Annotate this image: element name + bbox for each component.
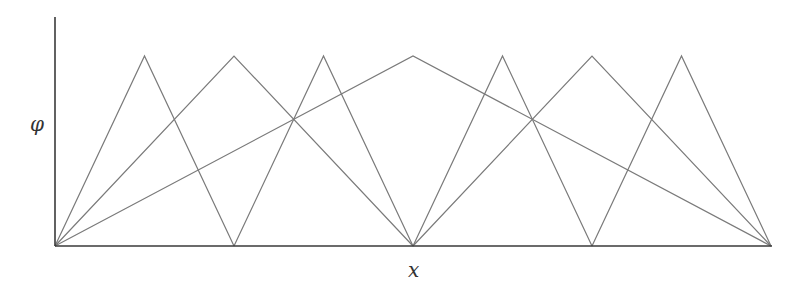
- hat-function-diagram: φ x: [0, 0, 800, 299]
- hat-function-line: [55, 56, 771, 246]
- hat-functions: [55, 56, 771, 246]
- x-axis-label: x: [408, 258, 419, 282]
- y-axis-label: φ: [30, 112, 44, 136]
